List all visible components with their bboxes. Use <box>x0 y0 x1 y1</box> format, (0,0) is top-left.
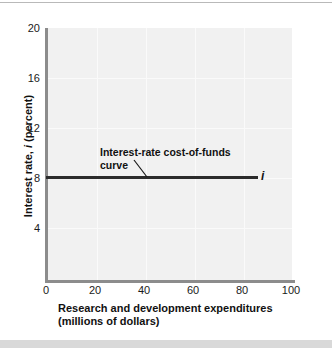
x-tick-label-40: 40 <box>124 285 164 296</box>
curve-annotation: Interest-rate cost-of-funds curve <box>100 146 270 171</box>
top-divider-rule <box>0 2 332 3</box>
x-tick-label-20: 20 <box>75 285 115 296</box>
curve-annotation-line2: curve <box>100 159 270 172</box>
x-axis-line <box>45 280 295 283</box>
cost-of-funds-curve <box>46 176 258 179</box>
gridline-horizontal-4 <box>48 228 292 229</box>
y-tick-label-12: 12 <box>0 123 40 134</box>
curve-annotation-line1: Interest-rate cost-of-funds <box>100 146 270 159</box>
y-tick-label-4: 4 <box>0 223 40 234</box>
x-tick-label-0: 0 <box>26 285 66 296</box>
curve-symbol-label: i <box>261 170 264 182</box>
gridline-vertical-20 <box>97 28 98 280</box>
chart-figure: 20 16 12 8 4 0 20 40 60 80 100 i Interes… <box>0 0 332 348</box>
gridline-horizontal-16 <box>48 78 292 79</box>
x-tick-label-80: 80 <box>222 285 262 296</box>
bottom-band <box>0 340 332 348</box>
gridline-horizontal-12 <box>48 128 292 129</box>
y-tick-label-8: 8 <box>0 173 40 184</box>
x-tick-label-60: 60 <box>173 285 213 296</box>
x-axis-title-line2: (millions of dollars) <box>58 315 318 328</box>
y-axis-title-prefix: Interest rate, <box>22 148 34 217</box>
x-tick-label-100: 100 <box>271 285 311 296</box>
y-axis-title-symbol: i <box>22 145 34 148</box>
y-axis-title: Interest rate, i (percent) <box>22 56 34 256</box>
y-tick-label-20: 20 <box>0 23 40 34</box>
y-tick-label-16: 16 <box>0 73 40 84</box>
y-axis-title-suffix: (percent) <box>22 95 34 145</box>
y-axis-line <box>45 28 48 283</box>
x-axis-title: Research and development expenditures (m… <box>58 302 318 328</box>
x-axis-title-line1: Research and development expenditures <box>58 302 318 315</box>
